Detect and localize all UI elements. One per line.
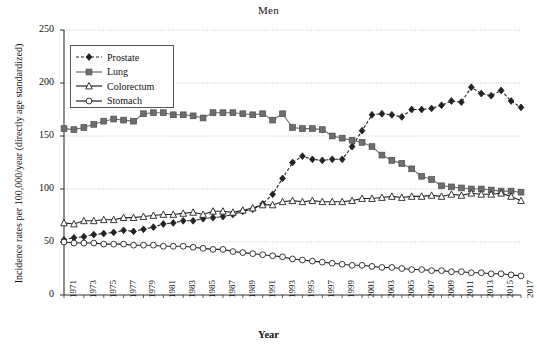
- legend-swatch-filled-square-icon: [75, 66, 103, 78]
- x-tick-label: 1981: [167, 280, 177, 298]
- y-tick-label: 200: [28, 76, 54, 87]
- y-tick-label: 50: [28, 235, 54, 246]
- x-tick-label: 1997: [326, 280, 336, 298]
- x-tick-label: 1985: [207, 280, 217, 298]
- x-tick-label: 2003: [386, 280, 396, 298]
- series-lung: [61, 110, 524, 195]
- legend: ProstateLungColorectumStomach: [70, 45, 174, 108]
- x-tick-label: 1987: [227, 280, 237, 298]
- x-tick-label: 2001: [366, 280, 376, 298]
- chart-figure: Men Incidence rates per 100,000/year (di…: [0, 0, 537, 348]
- y-tick-label: 100: [28, 182, 54, 193]
- x-tick-label: 2015: [505, 280, 515, 298]
- x-tick-label: 1973: [88, 280, 98, 298]
- x-tick-label: 2009: [446, 280, 456, 298]
- series-layer: [61, 84, 525, 279]
- legend-swatch-open-triangle-icon: [75, 80, 103, 92]
- y-tick-label: 0: [28, 288, 54, 299]
- legend-label: Colorectum: [107, 81, 154, 92]
- x-tick-label: 1991: [267, 280, 277, 298]
- x-axis-title: Year: [0, 329, 537, 340]
- y-tick-label: 250: [28, 23, 54, 34]
- series-colorectum: [61, 190, 525, 227]
- x-tick-label: 1983: [187, 280, 197, 298]
- y-tick-label: 150: [28, 129, 54, 140]
- x-tick-label: 1995: [306, 280, 316, 298]
- x-tick-label: 2007: [426, 280, 436, 298]
- x-tick-label: 2005: [406, 280, 416, 298]
- series-stomach: [61, 239, 524, 279]
- x-tick-label: 1975: [108, 280, 118, 298]
- legend-label: Lung: [107, 66, 128, 77]
- x-tick-label: 2011: [465, 280, 475, 298]
- x-tick-label: 1989: [247, 280, 257, 298]
- x-tick-label: 1993: [287, 280, 297, 298]
- legend-swatch-filled-diamond-icon: [75, 51, 103, 63]
- legend-item-colorectum[interactable]: Colorectum: [75, 79, 154, 93]
- x-tick-label: 1999: [346, 280, 356, 298]
- x-tick-label: 2013: [485, 280, 495, 298]
- x-tick-label: 1979: [147, 280, 157, 298]
- legend-swatch-open-circle-icon: [75, 95, 103, 107]
- legend-item-stomach[interactable]: Stomach: [75, 94, 142, 108]
- legend-label: Stomach: [107, 95, 142, 106]
- x-tick-label: 1971: [68, 280, 78, 298]
- legend-label: Prostate: [107, 52, 139, 63]
- x-tick-label: 1977: [128, 280, 138, 298]
- legend-item-lung[interactable]: Lung: [75, 65, 128, 79]
- x-tick-label: 2017: [525, 280, 535, 298]
- legend-item-prostate[interactable]: Prostate: [75, 50, 139, 64]
